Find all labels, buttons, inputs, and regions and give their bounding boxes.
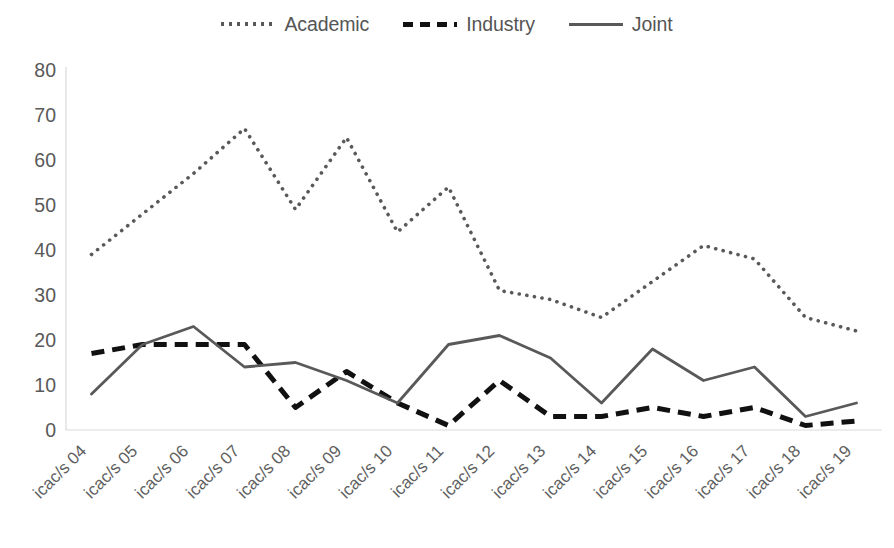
x-axis-tick-label: icac/s 13 [488, 441, 549, 502]
y-axis-tick-label: 40 [34, 239, 56, 261]
y-axis-tick-label: 10 [34, 374, 56, 396]
series-lines [92, 129, 857, 426]
x-axis-tick-label: icac/s 11 [387, 441, 447, 501]
x-axis-tick-label: icac/s 19 [794, 441, 855, 502]
series-line-academic [92, 129, 857, 332]
plot-frame [66, 67, 882, 430]
axis-frame [66, 67, 882, 430]
x-axis-tick-labels: icac/s 04icac/s 05icac/s 06icac/s 07icac… [29, 441, 855, 502]
x-axis-tick-label: icac/s 06 [131, 441, 192, 502]
x-axis-tick-label: icac/s 16 [641, 441, 702, 502]
x-axis-tick-label: icac/s 12 [437, 441, 498, 502]
x-axis-tick-label: icac/s 05 [80, 441, 141, 502]
y-axis-tick-label: 70 [34, 104, 56, 126]
y-axis-tick-label: 50 [34, 194, 56, 216]
x-axis-tick-label: icac/s 04 [29, 441, 90, 502]
x-axis-tick-label: icac/s 09 [284, 441, 345, 502]
y-axis-tick-labels: 01020304050607080 [34, 59, 56, 441]
x-axis-tick-label: icac/s 17 [692, 441, 753, 502]
x-axis-tick-label: icac/s 08 [233, 441, 294, 502]
series-line-industry [92, 345, 857, 426]
y-axis-tick-label: 60 [34, 149, 56, 171]
y-axis-tick-label: 80 [34, 59, 56, 81]
x-axis-tick-label: icac/s 14 [539, 441, 600, 502]
y-axis-tick-label: 20 [34, 329, 56, 351]
y-axis-tick-label: 30 [34, 284, 56, 306]
y-axis-tick-label: 0 [45, 419, 56, 441]
line-chart: Academic Industry Joint 0102030405060708… [0, 0, 894, 548]
x-axis-tick-label: icac/s 10 [335, 441, 396, 502]
x-axis-tick-label: icac/s 07 [182, 441, 243, 502]
x-axis-tick-label: icac/s 18 [743, 441, 804, 502]
x-axis-tick-label: icac/s 15 [590, 441, 651, 502]
plot-area: 01020304050607080 icac/s 04icac/s 05icac… [0, 0, 894, 548]
